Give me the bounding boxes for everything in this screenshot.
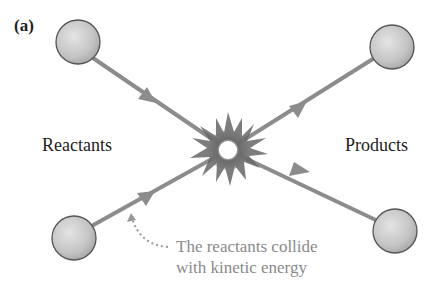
arrowhead-top-right-icon <box>289 101 307 118</box>
collision-starburst-icon <box>190 112 268 186</box>
annotation-line-1: The reactants collide <box>176 236 318 257</box>
reactants-label: Reactants <box>42 135 112 156</box>
product-particle-top <box>370 25 414 69</box>
annotation-arrowhead-icon <box>127 213 136 222</box>
annotation-pointer <box>127 213 168 247</box>
reactant-particle-top <box>56 20 100 64</box>
reactant-particle-bottom <box>52 216 96 260</box>
arrowhead-bottom-right-icon <box>289 162 310 176</box>
collision-annotation: The reactants collide with kinetic energ… <box>176 236 318 278</box>
product-particle-bottom <box>373 209 417 253</box>
path-bottom-left <box>88 150 228 228</box>
annotation-line-2: with kinetic energy <box>176 257 318 278</box>
panel-label: (a) <box>14 16 34 36</box>
products-label: Products <box>345 135 408 156</box>
